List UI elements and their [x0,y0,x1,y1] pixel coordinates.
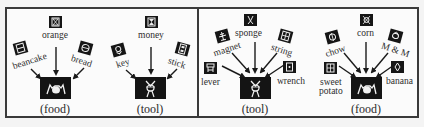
food-icon [40,77,71,99]
orange-symbol-icon [49,16,62,28]
tool-icon [135,77,166,99]
label-sweet-potato-line2: potato [319,86,343,96]
right-panel [197,7,419,118]
sweet-potato-symbol-icon [324,62,337,74]
food-icon [351,77,382,99]
sponge-symbol-icon [244,14,257,26]
label-wrench: wrench [277,76,305,86]
food-lexigram-target-right [351,77,382,99]
category-food-left: (food) [33,103,77,115]
label-sponge: sponge [235,28,262,38]
label-corn: corn [357,28,374,38]
label-lever: lever [201,77,220,87]
category-tool-right: (tool) [233,103,277,115]
tool-lexigram-target [135,77,166,99]
lever-symbol-icon [204,62,217,74]
label-banana: banana [386,76,413,86]
banana-symbol-icon [391,61,404,73]
tool-lexigram-target-right [240,77,271,99]
wrench-symbol-icon [283,61,296,73]
label-orange: orange [42,30,68,40]
money-symbol-icon [145,16,158,28]
corn-symbol-icon [360,14,373,26]
category-tool-left: (tool) [128,103,172,115]
label-money: money [138,30,164,40]
food-lexigram-target [40,77,71,99]
tool-icon [240,77,271,99]
category-food-right: (food) [344,103,388,115]
